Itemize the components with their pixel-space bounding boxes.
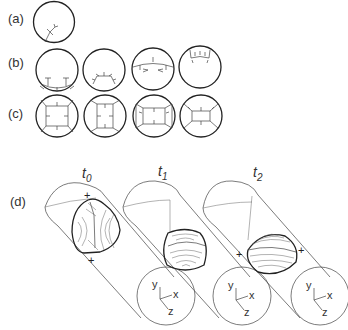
panel-b-circle-2: [83, 49, 125, 91]
cylinder-t1: y x z: [123, 181, 271, 325]
panel-c-circle-1: [36, 95, 78, 137]
svg-text:z: z: [168, 305, 174, 317]
cylinder-t2-end-circle: [291, 267, 348, 325]
panel-a-circle: [34, 2, 75, 43]
panel-label-a: (a): [8, 11, 24, 26]
svg-text:x: x: [249, 289, 255, 301]
svg-text:z: z: [322, 306, 328, 318]
axes-icon-t2: y x z: [306, 279, 333, 318]
figure-canvas: (a) (b) (c) (d): [0, 0, 348, 330]
panel-b-circle-3: [132, 48, 174, 90]
svg-text:y: y: [228, 279, 234, 291]
panel-c-circle-4: [180, 95, 222, 137]
svg-text:x: x: [173, 288, 179, 300]
panel-c-circle-3: [133, 95, 175, 137]
panel-label-b: (b): [8, 55, 24, 70]
plus-sign-t0-bottom: +: [88, 254, 94, 266]
cylinder-t0: + + y x z: [45, 183, 195, 325]
svg-text:y: y: [152, 278, 158, 290]
svg-text:y: y: [306, 279, 312, 291]
axes-icon-t1: y x z: [228, 279, 255, 318]
panel-b-circle-4: [179, 46, 221, 88]
panel-c-circle-2: [84, 95, 126, 137]
panel-label-d: (d): [10, 194, 26, 209]
plus-sign-t2-left: +: [236, 248, 242, 260]
plus-sign-t2-right: +: [298, 244, 304, 256]
cylinder-t1-end-circle: [213, 267, 271, 325]
cylinder-t0-end-circle: [137, 267, 195, 325]
time-label-t0: t0: [82, 165, 92, 184]
time-label-t2: t2: [253, 164, 263, 183]
panel-label-c: (c): [8, 106, 23, 121]
time-label-t1: t1: [158, 163, 167, 182]
axes-icon-t0: y x z: [152, 278, 179, 317]
cylinder-t2: + + y x z: [203, 181, 348, 325]
plus-sign-t0-top: +: [84, 189, 90, 201]
panel-b-circle-1: [36, 49, 78, 91]
svg-text:x: x: [327, 289, 333, 301]
svg-text:z: z: [244, 306, 250, 318]
